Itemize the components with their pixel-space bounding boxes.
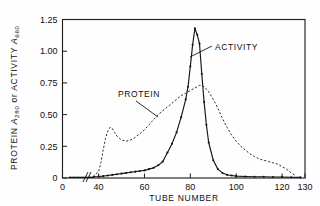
data-point-marker [166, 152, 168, 154]
x-tick-label: 80 [185, 182, 195, 192]
data-point-marker [185, 98, 187, 100]
y-tick-label: 0.25 [40, 142, 58, 152]
y-axis-title: PROTEIN A280 or ACTIVITY A660 [9, 25, 20, 170]
y-title-sub-660: 660 [13, 25, 20, 37]
x-tick-label: 0 [60, 182, 65, 192]
activity-curve [69, 28, 300, 177]
data-point-marker [205, 124, 207, 126]
protein-label: PROTEIN [118, 89, 160, 99]
data-point-marker [208, 141, 210, 143]
figure-container: 0406080100120130 00.250.500.751.001.25 P… [0, 0, 320, 206]
y-tick-label: 1.25 [40, 15, 58, 25]
data-point-marker [196, 34, 198, 36]
data-point-marker [93, 176, 95, 178]
y-title-prefix: PROTEIN [9, 124, 19, 170]
data-point-marker [198, 43, 200, 45]
data-point-marker [299, 176, 301, 178]
protein-leader-line [136, 101, 158, 117]
data-point-marker [176, 131, 178, 133]
data-point-marker [153, 167, 155, 169]
data-point-marker [201, 73, 203, 75]
y-title-sub-280: 280 [13, 105, 20, 117]
data-point-marker [244, 175, 246, 177]
activity-label: ACTIVITY [215, 42, 258, 52]
y-tick-label: 0 [52, 173, 57, 183]
x-tick-label: 60 [139, 182, 149, 192]
data-point-marker [98, 175, 100, 177]
y-tick-label: 0.75 [40, 78, 58, 88]
data-point-marker [203, 101, 205, 103]
data-point-marker [125, 172, 127, 174]
y-tick-label: 0.50 [40, 110, 58, 120]
activity-data-markers [93, 27, 302, 178]
data-point-marker [134, 171, 136, 173]
data-point-marker [180, 116, 182, 118]
data-point-marker [162, 160, 164, 162]
y-title-conjunction: or [9, 91, 19, 106]
data-point-marker [111, 174, 113, 176]
x-tick-label: 100 [229, 182, 244, 192]
y-title-symbol-a660: A [9, 38, 19, 45]
data-point-marker [187, 86, 189, 88]
y-tick-label: 1.00 [40, 46, 58, 56]
data-point-marker [157, 164, 159, 166]
data-point-marker [281, 176, 283, 178]
y-title-activity-word: ACTIVITY [9, 44, 19, 91]
data-point-marker [120, 173, 122, 175]
data-point-marker [143, 169, 145, 171]
data-point-marker [194, 27, 196, 29]
x-axis-title: TUBE NUMBER [149, 193, 219, 203]
data-point-marker [148, 168, 150, 170]
data-point-marker [192, 44, 194, 46]
data-point-marker [107, 174, 109, 176]
data-point-marker [102, 175, 104, 177]
data-point-marker [212, 159, 214, 161]
data-point-marker [221, 172, 223, 174]
x-tick-label: 130 [297, 182, 312, 192]
data-point-marker [263, 176, 265, 178]
data-point-marker [130, 171, 132, 173]
protein-curve [69, 85, 296, 177]
data-point-marker [272, 176, 274, 178]
y-title-symbol-a280: A [9, 118, 19, 125]
data-point-marker [226, 174, 228, 176]
data-point-marker [139, 170, 141, 172]
activity-leader-line [190, 46, 212, 57]
data-point-marker [235, 175, 237, 177]
x-tick-label: 120 [275, 182, 290, 192]
data-point-marker [231, 174, 233, 176]
data-point-marker [290, 176, 292, 178]
data-point-marker [171, 143, 173, 145]
plot-frame [63, 20, 306, 179]
chart-canvas: 0406080100120130 00.250.500.751.001.25 P… [0, 0, 320, 206]
data-point-marker [116, 173, 118, 175]
data-point-marker [217, 168, 219, 170]
data-point-marker [253, 176, 255, 178]
x-tick-label: 40 [94, 182, 104, 192]
data-point-marker [189, 65, 191, 67]
